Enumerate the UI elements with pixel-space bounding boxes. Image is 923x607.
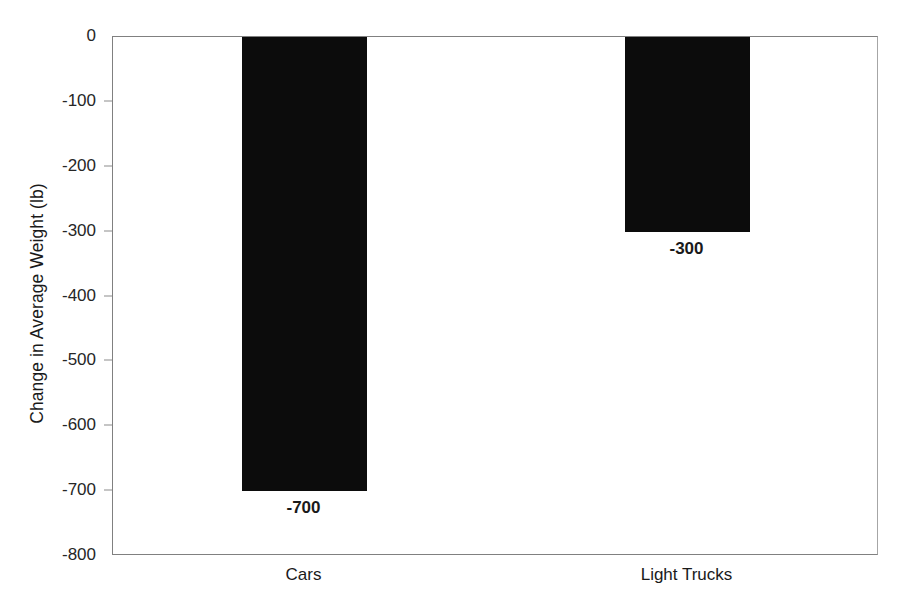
y-tick-mark [104,100,112,101]
bar-chart: Change in Average Weight (lb) 0-100-200-… [0,0,923,607]
y-tick-label: -200 [62,156,96,176]
bar [242,37,367,491]
x-category-label: Cars [286,565,322,585]
plot-area [112,36,878,555]
y-tick-mark [104,230,112,231]
y-tick-mark [104,295,112,296]
x-category-label: Light Trucks [641,565,733,585]
bar-value-label: -700 [286,498,320,518]
y-tick-mark [104,360,112,361]
y-tick-mark [104,490,112,491]
y-tick-label: -600 [62,415,96,435]
y-tick-label: -700 [62,480,96,500]
y-tick-label: 0 [87,26,96,46]
y-tick-label: -800 [62,545,96,565]
bar [625,37,750,232]
y-tick-mark [104,165,112,166]
y-tick-label: -500 [62,350,96,370]
y-tick-label: -100 [62,91,96,111]
y-tick-label: -300 [62,221,96,241]
bar-value-label: -300 [669,239,703,259]
y-tick-label: -400 [62,286,96,306]
y-tick-mark [104,425,112,426]
